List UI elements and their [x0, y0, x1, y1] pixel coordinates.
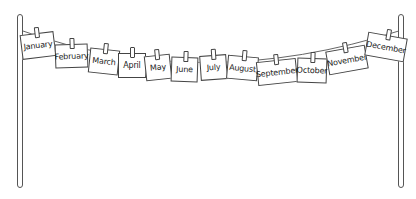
clothespin-icon: [310, 52, 315, 63]
clothesline-rope: [0, 0, 416, 199]
clothespin-icon: [154, 49, 160, 60]
clothespin-icon: [130, 47, 135, 58]
month-label: August: [229, 62, 256, 73]
month-label: June: [176, 65, 193, 75]
month-card-march: March: [88, 48, 120, 76]
clothesline-scene: JanuaryFebruaryMarchAprilMayJuneJulyAugu…: [0, 0, 416, 199]
month-card-june: June: [171, 57, 199, 83]
clothespin-icon: [210, 49, 216, 60]
clothespin-icon: [273, 54, 279, 65]
month-label: April: [123, 61, 140, 70]
month-card-september: September: [256, 58, 298, 86]
month-card-february: February: [55, 43, 89, 68]
month-card-august: August: [226, 55, 259, 82]
month-label: October: [297, 65, 328, 75]
clothespin-icon: [69, 38, 74, 49]
month-card-may: May: [144, 54, 172, 82]
month-label: May: [150, 62, 167, 73]
clothespin-icon: [183, 51, 188, 62]
month-label: December: [366, 39, 407, 55]
month-label: March: [92, 56, 116, 67]
month-card-april: April: [118, 53, 146, 78]
month-card-july: July: [199, 54, 228, 81]
clothespin-icon: [385, 29, 392, 41]
month-label: September: [255, 65, 298, 78]
month-card-october: October: [297, 57, 328, 83]
clothespin-icon: [241, 50, 247, 61]
month-label: July: [206, 63, 220, 73]
month-label: February: [54, 51, 88, 61]
month-card-january: January: [20, 31, 57, 60]
month-label: November: [327, 52, 368, 68]
clothespin-icon: [103, 43, 109, 54]
month-label: January: [23, 39, 53, 51]
